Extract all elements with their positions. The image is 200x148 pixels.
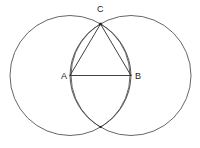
arc-a-to-lower-intersection [70, 76, 101, 128]
arc-b-to-lower-intersection [101, 76, 132, 128]
vertex-dot-c [99, 23, 101, 25]
point-label-a: A [61, 71, 67, 81]
geometry-figure: A B C [0, 0, 200, 148]
point-label-c: C [97, 4, 104, 14]
vertex-dot-lower-intersection [100, 126, 102, 128]
segment-bc [101, 24, 132, 76]
geometry-canvas: A B C [0, 0, 200, 148]
point-label-b: B [135, 71, 141, 81]
segment-ac [70, 24, 101, 76]
